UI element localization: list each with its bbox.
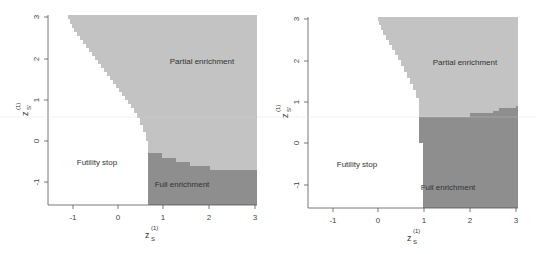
right-x-tick-label: -1 (329, 216, 337, 225)
right-full-enrichment-region (419, 106, 518, 208)
right-full-enrichment-label: Full enrichment (421, 183, 476, 192)
svg-text:z: z (145, 230, 150, 240)
right-y-axis-title: z S' (1) (275, 105, 292, 118)
svg-text:z: z (407, 233, 412, 243)
left-partial-enrichment-label: Partial enrichment (170, 57, 235, 66)
right-plot: -1 0 1 2 3 -1 0 1 2 3 Partial enrichment… (275, 16, 519, 245)
left-x-tick-label: 0 (116, 213, 121, 222)
svg-text:S: S (151, 236, 155, 242)
svg-text:(1): (1) (15, 103, 21, 110)
svg-text:z: z (20, 111, 30, 116)
right-x-tick-label: 0 (376, 216, 381, 225)
left-x-tick-label: 3 (253, 213, 258, 222)
right-partial-enrichment-label: Partial enrichment (433, 58, 498, 67)
left-y-tick-label: 3 (32, 14, 41, 19)
right-y-ticks (304, 19, 308, 185)
svg-text:(1): (1) (275, 105, 281, 112)
right-x-tick-label: 1 (422, 216, 427, 225)
left-y-axis-title: z S' (1) (15, 103, 32, 116)
left-x-tick-label: -1 (69, 213, 77, 222)
left-y-tick-label: 0 (32, 138, 41, 143)
figure: -1 0 1 2 3 -1 0 1 2 3 Partial enrichment… (0, 0, 536, 254)
right-y-tick-label: 2 (292, 58, 301, 63)
right-y-tick-label: 1 (292, 99, 301, 104)
left-y-ticks (44, 17, 48, 182)
left-x-tick-label: 1 (161, 213, 166, 222)
left-y-tick-label: -1 (32, 178, 41, 186)
right-x-tick-label: 2 (468, 216, 473, 225)
right-futility-stop-label: Futility stop (337, 160, 378, 169)
right-x-axis-title: z S (1) (407, 228, 420, 245)
left-y-tick-label: 1 (32, 97, 41, 102)
right-y-tick-label: 3 (292, 16, 301, 21)
right-x-ticks (333, 208, 516, 212)
right-y-tick-label: 0 (292, 140, 301, 145)
svg-text:S': S' (26, 105, 32, 110)
svg-text:(1): (1) (151, 225, 158, 231)
left-y-tick-label: 2 (32, 56, 41, 61)
left-full-enrichment-label: Full enrichment (155, 180, 210, 189)
right-y-tick-label: -1 (292, 181, 301, 189)
left-x-axis-title: z S (1) (145, 225, 158, 242)
left-plot: -1 0 1 2 3 -1 0 1 2 3 Partial enrichment… (15, 14, 258, 242)
svg-text:S: S (413, 239, 417, 245)
svg-text:(1): (1) (413, 228, 420, 234)
left-x-tick-label: 2 (207, 213, 212, 222)
svg-text:S': S' (286, 107, 292, 112)
right-x-tick-label: 3 (514, 216, 519, 225)
left-x-ticks (73, 205, 255, 209)
left-futility-stop-label: Futility stop (77, 158, 118, 167)
